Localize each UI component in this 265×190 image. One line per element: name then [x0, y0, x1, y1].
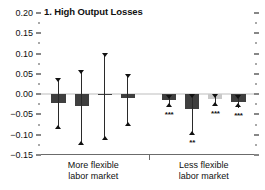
y-axis-tick-label: −0.10 [0, 130, 33, 140]
error-bar [81, 70, 82, 145]
y-axis-minor-tick [38, 43, 40, 44]
error-bar-cap-lower [212, 102, 218, 106]
y-axis-tick-mark-right [254, 155, 259, 156]
significance-stars: ** [189, 139, 195, 147]
error-bar-cap-upper [78, 70, 84, 74]
y-axis-minor-tick-right [255, 63, 257, 64]
significance-stars: *** [211, 110, 219, 118]
error-bar-cap-lower [102, 136, 108, 140]
error-bar-cap-upper [55, 78, 61, 82]
significance-stars: *** [165, 111, 173, 119]
group-label-line-1: Less flexible [179, 160, 229, 171]
y-axis-tick-mark-right [254, 114, 259, 115]
error-bar [127, 74, 128, 126]
y-axis-minor-tick-right [255, 104, 257, 105]
y-axis-tick-label: 0.20 [0, 8, 33, 18]
error-bar-cap-lower [235, 103, 241, 107]
y-axis-tick-mark [36, 53, 41, 54]
y-axis-tick-mark-right [254, 73, 259, 74]
error-bar-cap-upper [189, 94, 195, 98]
chart-container: 1. High Output Losses 0.200.150.100.050.… [0, 0, 265, 190]
y-axis-tick-label: 0.15 [0, 28, 33, 38]
error-bar-cap-lower [166, 103, 172, 107]
group-label-line-2: labor market [68, 171, 119, 182]
error-bar-cap-lower [78, 141, 84, 145]
y-axis-tick-mark [36, 155, 41, 156]
error-bar-cap-upper [166, 95, 172, 99]
y-axis-minor-tick [38, 84, 40, 85]
y-axis-minor-tick-right [255, 144, 257, 145]
group-label-line-2: labor market [179, 171, 229, 182]
error-bar-cap-upper [212, 94, 218, 98]
y-axis-minor-tick-right [255, 23, 257, 24]
error-bar-cap-upper [235, 95, 241, 99]
y-axis-tick-mark-right [254, 134, 259, 135]
error-bar [104, 53, 105, 140]
error-bar-cap-lower [125, 122, 131, 126]
y-axis-tick-mark [36, 33, 41, 34]
significance-stars: *** [234, 112, 242, 120]
y-axis-minor-tick [38, 63, 40, 64]
y-axis-tick-label: 0.00 [0, 89, 33, 99]
y-axis-tick-mark-right [254, 53, 259, 54]
y-axis-tick-mark [36, 134, 41, 135]
y-axis-tick-label: −0.15 [0, 150, 33, 160]
error-bar [192, 94, 193, 135]
y-axis-minor-tick-right [255, 43, 257, 44]
x-axis-line [41, 154, 254, 155]
y-axis-tick-mark-right [254, 13, 259, 14]
error-bar-cap-lower [189, 131, 195, 135]
y-axis-minor-tick [38, 144, 40, 145]
y-axis-tick-mark-right [254, 94, 259, 95]
y-axis-tick-mark-right [254, 33, 259, 34]
plot-area: 0.200.150.100.050.00−0.05−0.10−0.15*****… [41, 13, 254, 155]
y-axis-tick-label: −0.05 [0, 109, 33, 119]
y-axis-minor-tick [38, 104, 40, 105]
y-axis-minor-tick [38, 23, 40, 24]
y-axis-tick-label: 0.10 [0, 49, 33, 59]
y-axis-tick-mark [36, 13, 41, 14]
group-label-line-1: More flexible [68, 160, 119, 171]
y-axis-tick-label: 0.05 [0, 69, 33, 79]
y-axis-minor-tick-right [255, 124, 257, 125]
y-axis-minor-tick-right [255, 84, 257, 85]
x-axis-group-label: Less flexiblelabor market [179, 160, 229, 182]
error-bar-cap-upper [125, 74, 131, 78]
group-divider-tick [149, 155, 150, 160]
error-bar [58, 78, 59, 130]
x-axis-group-label: More flexiblelabor market [68, 160, 119, 182]
error-bar-cap-lower [55, 125, 61, 129]
error-bar-cap-upper [102, 53, 108, 57]
y-axis-minor-tick [38, 124, 40, 125]
y-axis-tick-mark [36, 73, 41, 74]
y-axis-tick-mark [36, 114, 41, 115]
